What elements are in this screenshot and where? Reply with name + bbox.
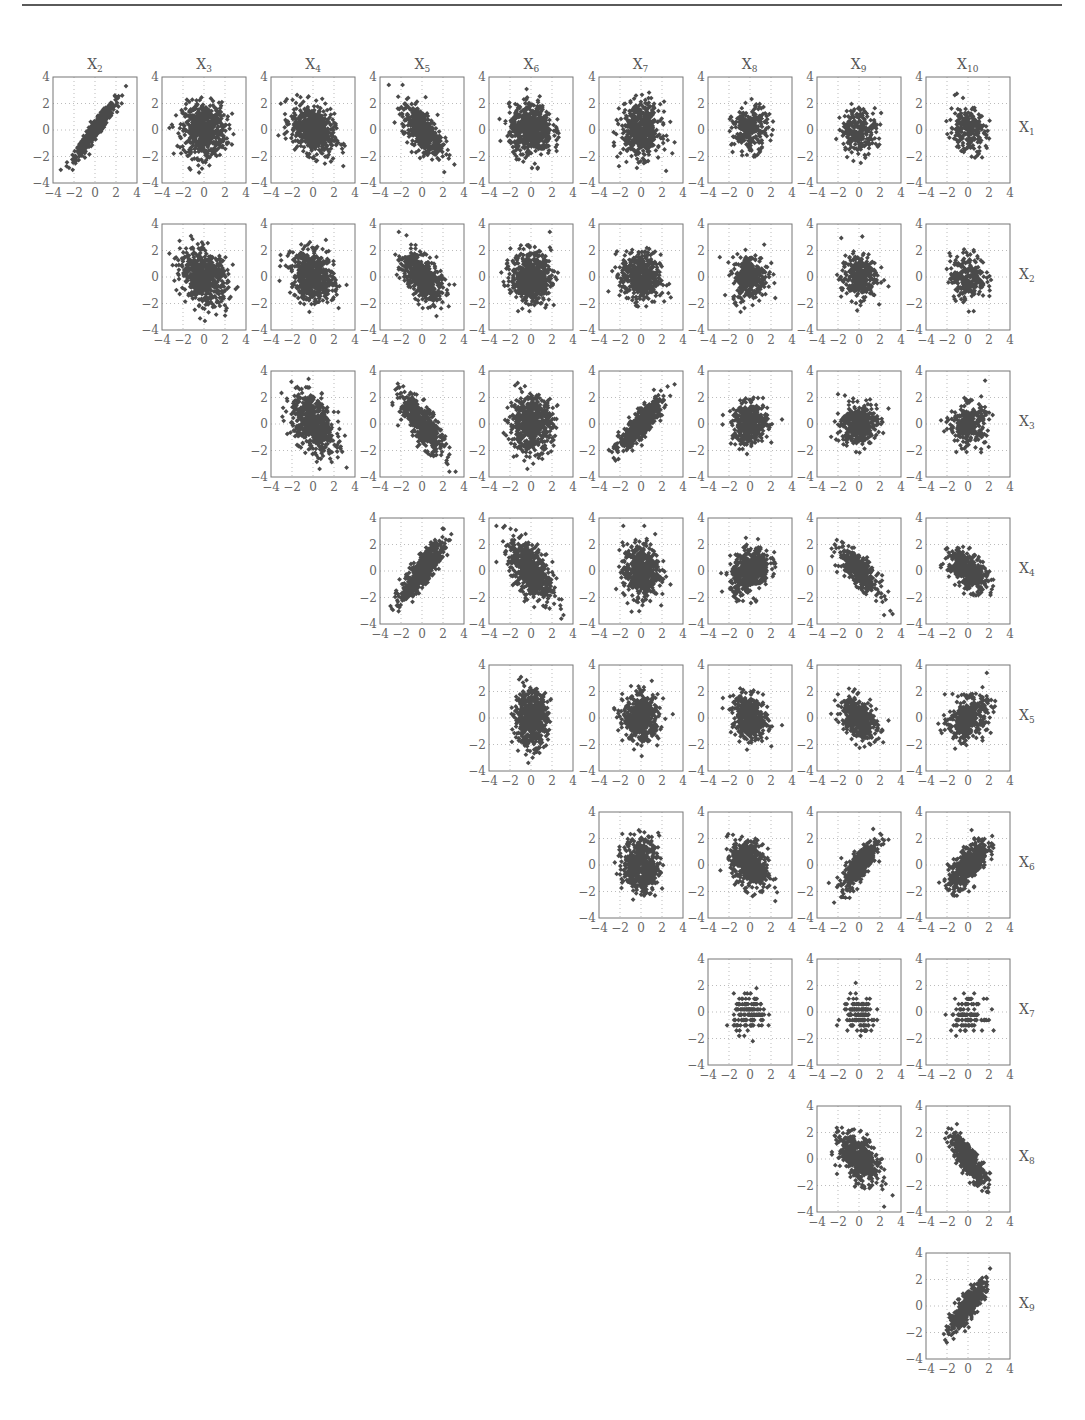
y-tick-label: 4 [915, 952, 923, 966]
y-tick-label: −2 [469, 738, 487, 752]
scatter-panel-x5-x8: −4−4−2−2002244 [678, 659, 802, 799]
scatter-points [611, 90, 677, 173]
x-tick-label: −4 [808, 921, 826, 935]
x-tick-label: 0 [746, 333, 754, 347]
y-tick-label: 2 [806, 832, 814, 846]
scatter-panel-x2-x9: −4−4−2−2002244 [787, 218, 911, 358]
scatter-panel-x3-x5: −4−4−2−2002244 [350, 365, 474, 505]
scatter-points [936, 671, 998, 752]
y-tick-label: 0 [915, 1005, 923, 1019]
row-label: X9 [1019, 1295, 1035, 1313]
x-tick-label: −4 [808, 333, 826, 347]
y-tick-label: 4 [915, 511, 923, 525]
y-tick-label: −2 [796, 297, 814, 311]
y-tick-label: 2 [806, 538, 814, 552]
x-tick-label: −2 [938, 774, 956, 788]
x-tick-label: −2 [829, 480, 847, 494]
scatter-panel-x1-x7: −4−4−2−2002244 [569, 71, 693, 211]
x-tick-label: 2 [876, 186, 884, 200]
x-tick-label: −2 [502, 480, 520, 494]
y-tick-label: 4 [697, 805, 705, 819]
y-tick-label: 2 [151, 244, 159, 258]
x-tick-label: 0 [309, 333, 317, 347]
y-tick-label: 0 [915, 564, 923, 578]
scatter-points [612, 828, 665, 902]
x-tick-label: −2 [611, 186, 629, 200]
y-tick-label: −2 [141, 297, 159, 311]
scatter-panel-x1-x5: −4−4−2−2002244 [350, 71, 474, 211]
scatter-panel-x1-x6: −4−4−2−2002244 [459, 71, 583, 211]
scatter-points [167, 234, 240, 324]
scatter-panel-x5-x9: −4−4−2−2002244 [787, 659, 911, 799]
scatter-points [58, 84, 128, 173]
x-tick-label: 0 [528, 333, 536, 347]
x-tick-label: −2 [938, 627, 956, 641]
scatter-panel-x8-x10: −4−4−2−2002244 [896, 1100, 1020, 1240]
x-tick-label: −2 [392, 480, 410, 494]
x-tick-label: −4 [699, 774, 717, 788]
y-tick-label: 4 [479, 511, 487, 525]
scatter-points [388, 526, 454, 614]
x-tick-label: 0 [418, 333, 426, 347]
y-tick-label: 4 [806, 364, 814, 378]
y-tick-label: 4 [806, 805, 814, 819]
y-tick-label: 4 [151, 70, 159, 84]
x-tick-label: 2 [549, 186, 557, 200]
x-tick-label: 2 [985, 1362, 993, 1376]
y-tick-label: 4 [261, 217, 269, 231]
y-tick-label: 4 [42, 70, 50, 84]
x-tick-label: 2 [658, 186, 666, 200]
row-label: X6 [1019, 854, 1035, 872]
x-tick-label: 2 [330, 480, 338, 494]
y-tick-label: 4 [806, 70, 814, 84]
scatter-points [393, 230, 457, 319]
x-tick-label: −4 [917, 1068, 935, 1082]
x-tick-label: −2 [502, 627, 520, 641]
x-tick-label: −2 [720, 186, 738, 200]
x-tick-label: 2 [221, 186, 229, 200]
y-tick-label: −2 [796, 591, 814, 605]
x-tick-label: −2 [938, 186, 956, 200]
x-tick-label: −2 [283, 333, 301, 347]
scatter-points [941, 1266, 992, 1345]
scatter-panel-x1-x3: −4−4−2−2002244 [132, 71, 256, 211]
y-tick-label: −2 [32, 150, 50, 164]
y-tick-label: 2 [915, 1126, 923, 1140]
x-tick-label: 2 [221, 333, 229, 347]
y-tick-label: 0 [697, 711, 705, 725]
y-tick-label: −2 [796, 1032, 814, 1046]
scatter-panel-x3-x8: −4−4−2−2002244 [678, 365, 802, 505]
x-tick-label: 2 [876, 921, 884, 935]
y-tick-label: 0 [697, 123, 705, 137]
y-tick-label: 0 [479, 123, 487, 137]
y-tick-label: 4 [697, 511, 705, 525]
y-tick-label: 0 [697, 270, 705, 284]
x-tick-label: 0 [637, 921, 645, 935]
y-tick-label: 0 [806, 123, 814, 137]
y-tick-label: −2 [687, 444, 705, 458]
x-tick-label: 2 [767, 627, 775, 641]
scatter-panel-x2-x8: −4−4−2−2002244 [678, 218, 802, 358]
scatter-points [834, 234, 890, 313]
x-tick-label: 2 [985, 480, 993, 494]
x-tick-label: 0 [746, 774, 754, 788]
x-tick-label: −2 [611, 774, 629, 788]
x-tick-label: 2 [439, 333, 447, 347]
y-tick-label: 4 [370, 511, 378, 525]
y-tick-label: 2 [806, 97, 814, 111]
y-tick-label: 2 [151, 97, 159, 111]
scatter-points [499, 230, 560, 314]
scatter-panel-x5-x6: −4−4−2−2002244 [459, 659, 583, 799]
scatter-points [613, 524, 672, 615]
scatter-points [494, 524, 566, 622]
x-tick-label: 0 [964, 921, 972, 935]
y-tick-label: 0 [915, 711, 923, 725]
scatter-points [724, 986, 771, 1044]
x-tick-label: −4 [371, 333, 389, 347]
row-label: X8 [1019, 1148, 1035, 1166]
x-tick-label: −4 [153, 186, 171, 200]
x-tick-label: 4 [1006, 627, 1014, 641]
scatter-panel-x3-x9: −4−4−2−2002244 [787, 365, 911, 505]
x-tick-label: 0 [964, 333, 972, 347]
x-tick-label: −4 [262, 186, 280, 200]
